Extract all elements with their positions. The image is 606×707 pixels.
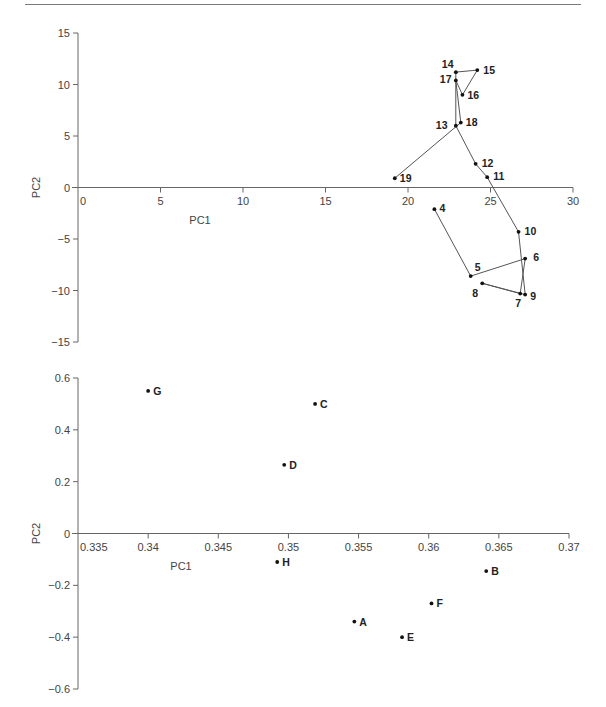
x-tick-label: 0.34 (137, 541, 158, 553)
data-point-label: G (153, 385, 161, 397)
data-point-marker (282, 463, 286, 467)
x-tick-label: 0.355 (345, 541, 373, 553)
y-tick-label: −0.4 (48, 631, 70, 643)
x-tick-label: 0.365 (485, 541, 513, 553)
x-tick-label: 0.37 (558, 541, 579, 553)
pca-chart-samples: 0.60.40.20−0.2−0.4−0.60.3350.340.3450.35… (0, 0, 606, 707)
data-point-marker (275, 560, 279, 564)
x-tick-label: 0.335 (80, 541, 108, 553)
data-point-marker (146, 389, 150, 393)
data-point-marker (352, 620, 356, 624)
data-point-label: C (320, 398, 328, 410)
data-point-marker (313, 402, 317, 406)
y-tick-label: −0.2 (48, 579, 70, 591)
x-tick-label: 0.36 (418, 541, 439, 553)
y-axis-title: PC2 (30, 523, 42, 544)
y-tick-label: 0.6 (55, 372, 70, 384)
data-point-marker (430, 602, 434, 606)
data-point-marker (400, 635, 404, 639)
y-tick-label: 0 (64, 528, 70, 540)
x-axis-title: PC1 (170, 560, 191, 572)
data-point-marker (484, 569, 488, 573)
data-point-label: H (282, 556, 290, 568)
data-point-label: E (407, 631, 414, 643)
y-tick-label: 0.2 (55, 476, 70, 488)
x-tick-label: 0.345 (205, 541, 233, 553)
data-point-label: B (491, 565, 499, 577)
y-tick-label: 0.4 (55, 424, 70, 436)
y-tick-label: −0.6 (48, 683, 70, 695)
data-point-label: F (437, 597, 444, 609)
data-point-label: A (359, 616, 367, 628)
x-tick-label: 0.35 (278, 541, 299, 553)
data-point-label: D (289, 459, 297, 471)
